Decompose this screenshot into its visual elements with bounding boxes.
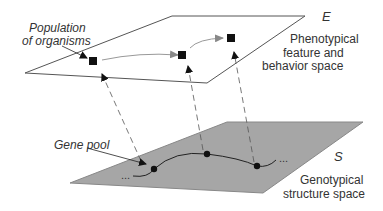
gene-pool-label: Gene pool	[54, 139, 109, 152]
phenotype-node-2	[178, 51, 186, 59]
phenotype-space-label-line3: behavior space	[262, 60, 343, 73]
genotype-space-label-line2: structure space	[283, 188, 365, 201]
genotype-ellipsis-left: ...	[121, 169, 130, 182]
genotype-phenotype-diagram: ... ... Population of organisms E Phenot…	[0, 0, 383, 211]
population-label-line2: of organisms	[22, 35, 91, 48]
phenotype-space-label-line1: Phenotypical	[290, 33, 359, 46]
genotype-space-label-line1: Genotypical	[300, 174, 363, 187]
genotype-space-symbol: S	[334, 150, 343, 163]
genotype-node-3	[254, 163, 260, 169]
phenotype-node-1	[89, 57, 97, 65]
genotype-node-2	[204, 151, 210, 157]
genotype-ellipsis-right: ...	[279, 152, 288, 165]
phenotype-node-3	[227, 34, 235, 42]
phenotype-space-symbol: E	[322, 10, 331, 23]
genotype-node-1	[151, 166, 157, 172]
